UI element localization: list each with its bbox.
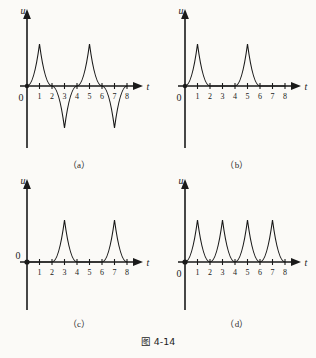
x-tick-label: 2 [50,92,54,101]
x-tick-label: 2 [208,92,212,101]
x-axis-arrow [133,258,143,266]
x-tick-label: 6 [100,92,104,101]
y-axis-label-a: u [21,5,26,16]
plot-d-svg: u t 0 1 2 3 4 5 6 7 8 [158,170,316,318]
x-tick-label: 2 [50,268,54,277]
axes-b [178,9,301,148]
x-tick-label: 1 [38,92,42,101]
plot-b: u t 0 1 2 3 4 5 6 7 8 [158,0,316,148]
x-tick-label: 4 [75,92,79,101]
x-axis-arrow [291,82,301,90]
origin-label-b: 0 [177,92,182,103]
y-axis-label-d: u [179,175,184,186]
x-tick-label: 3 [63,268,67,277]
x-tick-label: 4 [233,268,237,277]
axes-c [20,179,143,310]
plot-c: u t 0 1 2 3 4 5 6 7 8 [0,170,158,318]
axes-d [178,179,301,310]
x-axis-arrow [291,258,301,266]
waveform-curve-b [185,44,285,86]
panel-b: u t 0 1 2 3 4 5 6 7 8 （b） [158,0,316,168]
x-tick-label: 3 [221,92,225,101]
axes-a [20,9,143,148]
x-tick-label: 4 [75,268,79,277]
x-tick-labels-b: 1 2 3 4 5 6 7 8 [196,92,288,101]
x-tick-label: 1 [38,268,42,277]
x-tick-labels-c: 1 2 3 4 5 6 7 8 [38,268,130,277]
x-tick-label: 8 [283,92,287,101]
x-tick-label: 8 [125,268,129,277]
x-axis-label-d: t [305,257,308,268]
x-tick-label: 6 [100,268,104,277]
plot-d: u t 0 1 2 3 4 5 6 7 8 [158,170,316,318]
x-tick-label: 7 [113,268,117,277]
y-axis-label-b: u [179,5,184,16]
origin-label-a: 0 [19,92,24,103]
x-tick-label: 6 [258,268,262,277]
origin-label-c: 0 [16,250,21,261]
x-tick-label: 5 [246,268,250,277]
x-tick-label: 4 [233,92,237,101]
plot-a: u t 0 1 2 3 4 5 6 7 8 [0,0,158,148]
panel-d: u t 0 1 2 3 4 5 6 7 8 （d） [158,170,316,338]
x-tick-label: 1 [196,268,200,277]
x-tick-label: 8 [125,92,129,101]
panel-a: u t 0 1 2 3 4 5 6 7 8 （a） [0,0,158,168]
figure-caption: 图 4-14 [0,334,316,348]
x-tick-label: 7 [113,92,117,101]
x-tick-label: 2 [208,268,212,277]
x-tick-label: 5 [88,268,92,277]
x-axis-label-c: t [147,257,150,268]
x-axis-label-a: t [147,81,150,92]
x-tick-labels-d: 1 2 3 4 5 6 7 8 [196,268,288,277]
x-tick-label: 3 [221,268,225,277]
waveform-curve-d [185,220,285,262]
x-tick-label: 1 [196,92,200,101]
x-tick-label: 8 [283,268,287,277]
x-tick-label: 7 [271,92,275,101]
x-tick-labels-a: 1 2 3 4 5 6 7 8 [38,92,130,101]
x-axis-label-b: t [305,81,308,92]
origin-label-d: 0 [177,268,182,279]
x-tick-label: 5 [88,92,92,101]
x-tick-label: 7 [271,268,275,277]
plot-a-svg: u t 0 1 2 3 4 5 6 7 8 [0,0,158,148]
panel-caption-c: （c） [0,317,158,330]
x-tick-label: 6 [258,92,262,101]
x-axis-arrow [133,82,143,90]
panel-caption-d: （d） [158,317,316,330]
panel-c: u t 0 1 2 3 4 5 6 7 8 （c） [0,170,158,338]
plot-b-svg: u t 0 1 2 3 4 5 6 7 8 [158,0,316,148]
x-tick-label: 5 [246,92,250,101]
plot-c-svg: u t 0 1 2 3 4 5 6 7 8 [0,170,158,318]
y-axis-label-c: u [21,175,26,186]
figure-4-14: u t 0 1 2 3 4 5 6 7 8 （a） [0,0,316,358]
waveform-curve-c [27,220,127,262]
x-tick-label: 3 [63,92,67,101]
